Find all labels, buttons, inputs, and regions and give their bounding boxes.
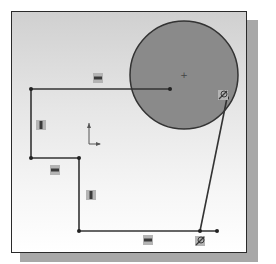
sketch-point[interactable] (198, 229, 202, 233)
relation-horizontal-icon[interactable] (93, 73, 103, 83)
sketch-point[interactable] (29, 87, 33, 91)
sketch-point[interactable] (215, 229, 219, 233)
relation-tangent-icon[interactable] (195, 236, 205, 246)
relation-horizontal-icon[interactable] (143, 235, 153, 245)
relation-tangent-icon[interactable] (218, 90, 228, 100)
relation-horizontal-icon[interactable] (50, 165, 60, 175)
sketch-point[interactable] (77, 156, 81, 160)
relation-vertical-icon[interactable] (36, 120, 46, 130)
sketch-point[interactable] (29, 156, 33, 160)
circle-center-mark: + (180, 70, 188, 80)
sketch-point[interactable] (168, 87, 172, 91)
relation-vertical-icon[interactable] (86, 190, 96, 200)
circle[interactable]: + (130, 21, 238, 129)
sketch-point[interactable] (77, 229, 81, 233)
sketch-canvas: + (0, 0, 276, 264)
origin-axes-icon (87, 123, 101, 146)
